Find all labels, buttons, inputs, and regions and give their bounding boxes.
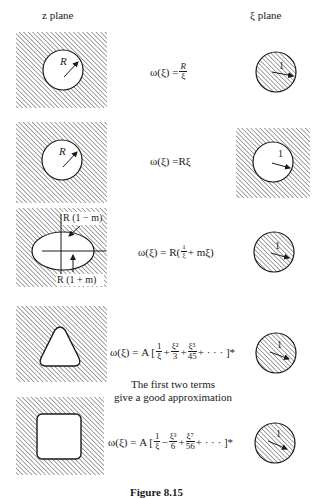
z-plane-header: z plane [42,9,73,21]
row1-xi-plane-diagram [256,52,296,92]
xi-plane-header: ξ plane [250,9,281,21]
row5-mapping-formula: ω(ξ) = A [ 1ξ − ξ³6 + ξ⁷56 + · · · ]* [108,432,233,451]
term-fraction: ξ³6 [169,432,178,451]
formula-tail: + · · · ]* [196,436,233,448]
formula-lhs: ω(ξ) = A [ [110,346,155,358]
note-line-2: give a good approximation [110,391,236,404]
formula-fraction: 1 ξ [181,244,187,259]
formula-lhs: ω(ξ) = R( [138,246,180,258]
fraction-denominator: ξ [182,252,185,259]
fraction-denominator: ξ [157,352,161,361]
row1-radius-label: R [60,55,67,67]
row3-xi-plane-diagram [254,232,294,272]
formula-lhs: ω(ξ) = [150,66,178,78]
row4-xi-plane-diagram [256,333,296,373]
row2-radius-label: R [59,145,66,157]
fraction-denominator: ξ [155,442,159,451]
row1-unit-label: 1 [279,60,284,71]
row2-xi-plane-diagram [236,128,310,198]
figure-caption: Figure 8.15 [130,486,183,498]
formula-lhs: ω(ξ) = [150,155,178,167]
formula-lhs: ω(ξ) = A [ [108,436,153,448]
term-fraction: 1ξ [154,432,161,451]
row5-unit-label: 1 [276,428,281,439]
row3-mapping-formula: ω(ξ) = R( 1 ξ + mξ) [138,244,214,259]
row5-z-plane-diagram [16,397,104,475]
formula-tail: + · · · ]* [198,346,235,358]
operator: + [163,346,169,358]
fraction-denominator: 6 [171,442,176,451]
formula-rhs: Rξ [178,155,190,167]
operator: + [180,346,186,358]
approximation-note: The first two terms give a good approxim… [110,378,236,404]
fraction-denominator: 56 [186,442,195,451]
row3-minor-axis-label: R (1 − m) [63,212,102,223]
row2-mapping-formula: ω(ξ) = Rξ [150,155,191,167]
row1-mapping-formula: ω(ξ) = R ξ [150,62,188,81]
row2-unit-label: 1 [278,148,283,159]
formula-fraction: R ξ [179,62,187,81]
fraction-denominator: ξ [181,72,185,81]
term-fraction: ξ⁷56 [186,432,195,451]
term-fraction: ξ⁵45 [188,342,197,361]
row4-z-plane-diagram [16,306,107,382]
row4-unit-label: 1 [277,339,282,350]
operator: − [161,436,167,448]
note-line-1: The first two terms [110,378,236,391]
formula-rest: + mξ) [188,246,214,258]
row3-major-axis-label: R (1 + m) [57,274,96,285]
operator: + [178,436,184,448]
fraction-denominator: 45 [188,352,197,361]
term-fraction: 1ξ [156,342,163,361]
fraction-denominator: 3 [173,352,178,361]
row4-mapping-formula: ω(ξ) = A [ 1ξ + ξ²3 + ξ⁵45 + · · · ]* [110,342,235,361]
row3-unit-label: 1 [275,240,280,251]
term-fraction: ξ²3 [171,342,180,361]
row5-xi-plane-diagram [255,423,295,463]
row2-z-plane-diagram [16,122,107,203]
row1-z-plane-diagram [16,32,107,108]
